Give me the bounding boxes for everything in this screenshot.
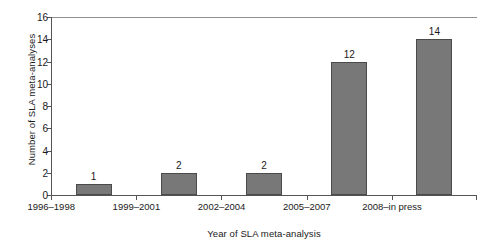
plot-area: 0 2 4 6 8 10 12 14 <box>51 17 477 196</box>
bar-value-label: 12 <box>344 49 355 60</box>
x-category-label-2: 1999–2001 <box>94 201 179 212</box>
x-category-label-5: 2008–in press <box>349 201 434 212</box>
y-tick-label: 8 <box>42 101 48 112</box>
y-tick-label: 14 <box>37 34 48 45</box>
x-category-label-1: 1996–1998 <box>9 201 94 212</box>
y-tick-label: 16 <box>37 12 48 23</box>
y-axis-title: Number of SLA meta-analyses <box>26 5 37 195</box>
y-tick-label: 6 <box>42 123 48 134</box>
bar-value-label: 2 <box>261 160 267 171</box>
x-category-label-3: 2002–2004 <box>179 201 264 212</box>
bar-value-label: 2 <box>176 160 182 171</box>
bar-value-label: 1 <box>91 171 97 182</box>
x-tick-mark <box>476 196 477 200</box>
x-tick-mark <box>51 196 52 200</box>
y-tick-label: 2 <box>42 168 48 179</box>
y-tick-label: 10 <box>37 79 48 90</box>
x-tick-mark <box>221 196 222 200</box>
x-tick-mark <box>307 196 308 200</box>
bar-1999-2001[interactable]: 2 <box>161 173 197 195</box>
y-tick-label: 12 <box>37 57 48 68</box>
y-tick-label: 4 <box>42 146 48 157</box>
x-tick-mark <box>392 196 393 200</box>
y-tick-label: 0 <box>42 190 48 201</box>
plot-top-border <box>51 17 477 18</box>
bar-2002-2004[interactable]: 2 <box>246 173 282 195</box>
x-axis-line <box>51 195 477 196</box>
bar-2008-in-press[interactable]: 14 <box>416 39 452 195</box>
bar-value-label: 14 <box>429 26 440 37</box>
bar-1996-1998[interactable]: 1 <box>76 184 112 195</box>
y-axis-line <box>51 17 52 196</box>
x-axis-title: Year of SLA meta-analysis <box>51 228 477 239</box>
x-category-label-4: 2005–2007 <box>264 201 349 212</box>
bar-chart-figure: Number of SLA meta-analyses 0 2 4 6 8 10 <box>0 0 490 252</box>
bar-2005-2007[interactable]: 12 <box>331 62 367 196</box>
x-tick-mark <box>136 196 137 200</box>
